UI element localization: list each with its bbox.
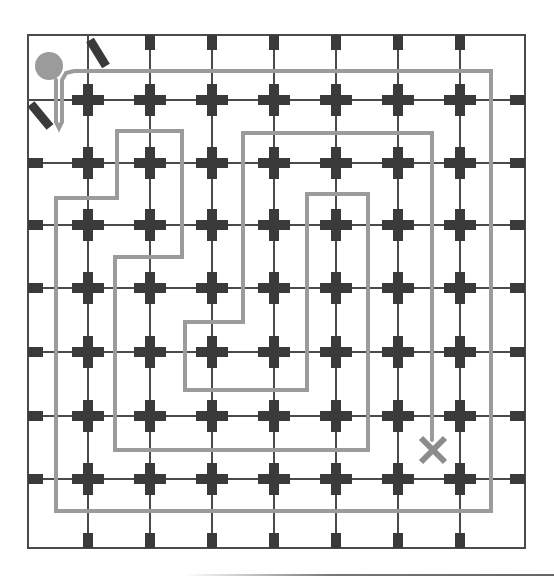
edge-stub-top: [207, 35, 217, 50]
cross-icon: [444, 209, 476, 241]
cross-icon: [134, 147, 166, 179]
cross-icon: [320, 84, 352, 116]
edge-stub-left: [28, 347, 43, 357]
cross-arm-vertical: [207, 209, 217, 241]
cross-arm-vertical: [331, 400, 341, 432]
cross-arm-vertical: [145, 84, 155, 116]
cross-arm-vertical: [455, 209, 465, 241]
edge-stub-left: [28, 474, 43, 484]
cross-icon: [320, 209, 352, 241]
edge-stub-bottom: [207, 533, 217, 548]
cross-arm-vertical: [207, 336, 217, 368]
edge-stub-top: [455, 35, 465, 50]
edge-stub-bottom: [331, 533, 341, 548]
cross-arm-vertical: [207, 463, 217, 495]
cross-icon: [134, 209, 166, 241]
cross-arm-vertical: [269, 336, 279, 368]
cross-icon: [382, 463, 414, 495]
edge-stub-left: [28, 220, 43, 230]
cross-arm-vertical: [207, 272, 217, 304]
cross-arm-vertical: [145, 147, 155, 179]
cross-arm-vertical: [393, 147, 403, 179]
cross-arm-vertical: [83, 272, 93, 304]
cross-icon: [258, 272, 290, 304]
cross-icon: [320, 400, 352, 432]
cross-arm-vertical: [331, 272, 341, 304]
cross-icon: [134, 336, 166, 368]
edge-stub-bottom: [83, 533, 93, 548]
edge-stub-bottom: [145, 533, 155, 548]
barrier-left-icon: [31, 104, 50, 127]
cross-arm-vertical: [83, 209, 93, 241]
cross-arm-vertical: [455, 147, 465, 179]
cross-icon: [444, 463, 476, 495]
cross-icon: [444, 272, 476, 304]
cross-icon: [382, 336, 414, 368]
cross-arm-vertical: [269, 272, 279, 304]
cross-icon: [444, 147, 476, 179]
cross-arm-vertical: [145, 336, 155, 368]
edge-stub-right: [510, 347, 525, 357]
cross-icon: [196, 336, 228, 368]
cross-arm-vertical: [207, 147, 217, 179]
cross-icon: [382, 400, 414, 432]
cross-icon: [444, 84, 476, 116]
cross-arm-vertical: [207, 84, 217, 116]
cross-icon: [134, 272, 166, 304]
cross-icon: [320, 147, 352, 179]
cross-icon: [382, 147, 414, 179]
cross-arm-vertical: [145, 209, 155, 241]
cross-arm-vertical: [269, 209, 279, 241]
edge-stub-top: [393, 35, 403, 50]
cross-icon: [72, 272, 104, 304]
cross-icon: [72, 463, 104, 495]
cross-icon: [444, 336, 476, 368]
cross-icon: [196, 272, 228, 304]
cross-arm-vertical: [145, 400, 155, 432]
cross-icon: [382, 84, 414, 116]
cross-icon: [444, 400, 476, 432]
edge-stub-right: [510, 283, 525, 293]
cross-icon: [196, 400, 228, 432]
cross-icon: [320, 272, 352, 304]
edge-stub-right: [510, 411, 525, 421]
cross-icon: [258, 209, 290, 241]
cross-icon: [258, 147, 290, 179]
cross-icon: [72, 400, 104, 432]
cross-arm-vertical: [269, 400, 279, 432]
cross-arm-vertical: [269, 84, 279, 116]
cross-arm-vertical: [207, 400, 217, 432]
cross-icon: [72, 147, 104, 179]
cross-arm-vertical: [455, 400, 465, 432]
cross-arm-vertical: [331, 84, 341, 116]
cross-icon: [320, 336, 352, 368]
edge-stub-top: [145, 35, 155, 50]
cross-arm-vertical: [269, 463, 279, 495]
edge-stub-right: [510, 220, 525, 230]
edge-stub-bottom: [455, 533, 465, 548]
cross-arm-vertical: [455, 272, 465, 304]
cross-icon: [258, 400, 290, 432]
cross-icon: [72, 84, 104, 116]
grid-board: [0, 0, 554, 577]
cross-arm-vertical: [393, 336, 403, 368]
cross-icon: [258, 84, 290, 116]
cross-arm-vertical: [331, 147, 341, 179]
cross-icon: [134, 400, 166, 432]
cross-arm-vertical: [455, 463, 465, 495]
edge-stub-right: [510, 474, 525, 484]
cross-arm-vertical: [145, 463, 155, 495]
cross-icon: [258, 463, 290, 495]
cross-arm-vertical: [331, 336, 341, 368]
cross-icon: [382, 209, 414, 241]
cross-arm-vertical: [393, 400, 403, 432]
edge-stub-bottom: [269, 533, 279, 548]
edge-stub-top: [331, 35, 341, 50]
cross-arm-vertical: [83, 147, 93, 179]
circle-start-icon[interactable]: [35, 52, 63, 80]
cross-arm-vertical: [83, 84, 93, 116]
cross-arm-vertical: [83, 400, 93, 432]
puzzle-canvas: [0, 0, 554, 577]
bottom-divider: [185, 574, 554, 576]
barrier-top-icon: [90, 40, 106, 66]
